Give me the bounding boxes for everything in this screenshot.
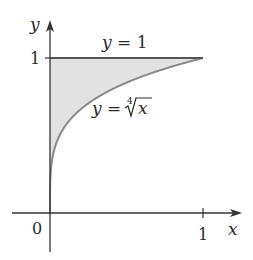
line-label-rest: = 1 xyxy=(112,32,148,52)
radicand: x xyxy=(138,98,148,118)
shaded-region xyxy=(50,58,203,213)
y-axis-label: y xyxy=(29,14,40,34)
x-axis-label: x xyxy=(228,219,238,239)
x-tick-label: 1 xyxy=(198,225,208,244)
diagram-canvas: y x 0 1 1 y = 1 y = 4 x xyxy=(0,0,253,260)
curve-label-y: y xyxy=(91,98,102,118)
curve-label: y = 4 x xyxy=(91,96,152,118)
radical-index: 4 xyxy=(127,96,133,106)
y-tick-label: 1 xyxy=(30,49,40,68)
line-label-y: y xyxy=(101,32,112,52)
curve-label-eq: = xyxy=(102,98,122,118)
origin-label: 0 xyxy=(32,219,42,238)
svg-text:y =: y = xyxy=(91,98,121,118)
line-label: y = 1 xyxy=(101,32,147,52)
